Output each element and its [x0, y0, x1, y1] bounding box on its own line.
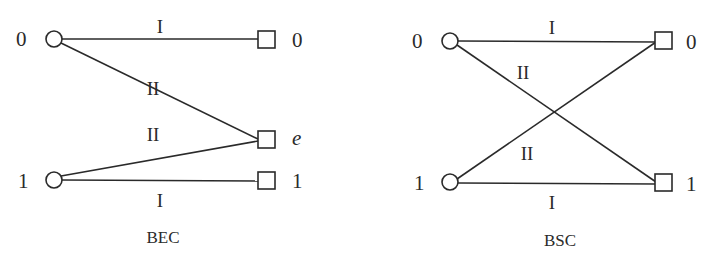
- bsc-input-label-0: 0: [412, 29, 423, 53]
- bsc-edge-label-1-0: II: [521, 143, 534, 164]
- bsc-edge-1-0: [457, 42, 656, 179]
- bec-edge-label-0-e: II: [147, 78, 160, 99]
- bsc-input-node-1: [442, 174, 458, 190]
- bsc-edge-label-0-1: II: [517, 62, 530, 83]
- bsc-diagram: 0 1 0 1 I II II I BSC: [412, 17, 697, 250]
- bec-input-node-1: [46, 172, 62, 188]
- bsc-output-node-1: [655, 174, 672, 191]
- bsc-output-label-0: 0: [686, 30, 697, 54]
- bec-edge-1-e: [61, 141, 258, 176]
- bsc-output-node-0: [655, 32, 672, 49]
- bsc-edge-label-1-1: I: [549, 192, 555, 213]
- bec-caption: BEC: [146, 228, 179, 247]
- bsc-output-label-1: 1: [686, 172, 697, 196]
- bec-edge-label-1-e: II: [147, 124, 160, 145]
- bsc-edge-1-1: [458, 183, 656, 184]
- bec-output-label-e: e: [292, 126, 301, 150]
- bec-output-node-1: [258, 172, 275, 189]
- bsc-edge-label-0-0: I: [549, 17, 555, 38]
- bec-output-node-e: [258, 131, 275, 148]
- bec-edge-1-1: [62, 180, 258, 181]
- bec-input-label-0: 0: [16, 27, 27, 51]
- bsc-edge-0-0: [458, 41, 656, 42]
- bec-edge-label-0-0: I: [157, 16, 163, 37]
- bec-input-node-0: [46, 31, 62, 47]
- bsc-caption: BSC: [544, 231, 576, 250]
- bec-edge-label-1-1: I: [157, 190, 163, 211]
- channel-diagrams: 0 1 0 e 1 I II II I BEC 0 1 0 1 I II: [0, 0, 720, 260]
- bec-input-label-1: 1: [18, 169, 29, 193]
- bec-output-label-1: 1: [292, 169, 303, 193]
- bsc-input-label-1: 1: [414, 171, 425, 195]
- bec-diagram: 0 1 0 e 1 I II II I BEC: [16, 16, 303, 247]
- bsc-input-node-0: [442, 33, 458, 49]
- bsc-edge-0-1: [457, 45, 656, 182]
- bec-output-label-0: 0: [292, 28, 303, 52]
- bec-output-node-0: [258, 31, 275, 48]
- bec-edge-0-e: [61, 43, 258, 139]
